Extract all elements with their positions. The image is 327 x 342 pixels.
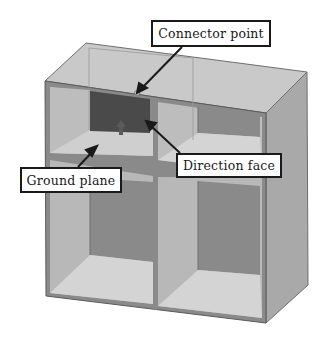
cabinet-side-face xyxy=(266,72,308,323)
compartment-bottom-right xyxy=(158,177,262,318)
connector-point-label: Connector point xyxy=(151,20,271,47)
ground-plane-label: Ground plane xyxy=(20,167,122,193)
compartment-top-left xyxy=(50,87,153,156)
direction-face-label: Direction face xyxy=(176,153,282,178)
diagram-canvas: Connector point Ground plane Direction f… xyxy=(0,0,327,342)
